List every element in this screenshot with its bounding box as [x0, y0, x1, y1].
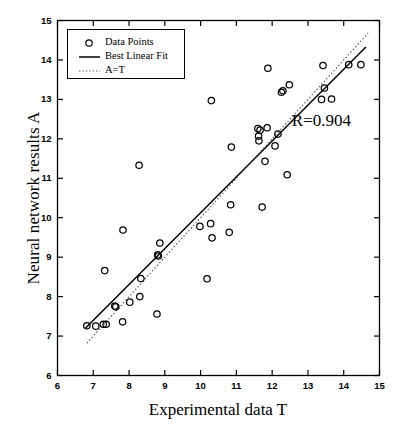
legend-item-best-linear-fit: Best Linear Fit — [105, 50, 168, 61]
plot-background — [0, 0, 401, 432]
x-tick-label: 9 — [151, 380, 179, 391]
legend: Data Points Best Linear Fit A=T — [67, 29, 185, 79]
y-tick-label: 6 — [24, 370, 52, 381]
x-tick-label: 12 — [258, 380, 286, 391]
x-tick-label: 15 — [366, 380, 394, 391]
y-axis-label: Neural network results A — [24, 68, 44, 328]
figure-container: 6789101112131415 6789101112131415 Experi… — [0, 0, 401, 432]
x-tick-label: 11 — [222, 380, 250, 391]
x-tick-label: 7 — [79, 380, 107, 391]
correlation-annotation: R=0.904 — [292, 111, 351, 131]
x-tick-label: 6 — [44, 380, 72, 391]
x-tick-label: 13 — [294, 380, 322, 391]
x-tick-label: 14 — [330, 380, 358, 391]
legend-item-identity: A=T — [105, 64, 125, 75]
legend-item-data-points: Data Points — [105, 36, 154, 47]
x-tick-label: 10 — [187, 380, 215, 391]
x-tick-label: 8 — [115, 380, 143, 391]
x-axis-label: Experimental data T — [57, 400, 379, 420]
scatter-plot — [0, 0, 401, 432]
y-tick-label: 15 — [24, 15, 52, 26]
y-tick-label: 7 — [24, 330, 52, 341]
y-tick-label: 14 — [24, 54, 52, 65]
